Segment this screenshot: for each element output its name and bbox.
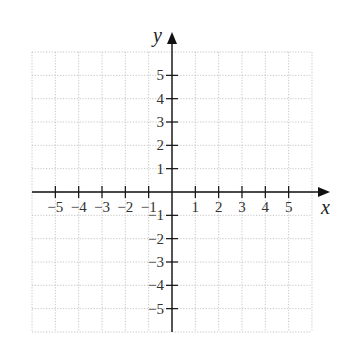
x-axis-label: x (320, 196, 330, 218)
x-tick-label: −3 (94, 199, 110, 215)
y-tick-label: 2 (157, 137, 165, 153)
y-tick-label: −1 (148, 207, 164, 223)
x-tick-label: −2 (117, 199, 133, 215)
y-axis-arrow-icon (167, 32, 177, 44)
y-tick-label: −2 (148, 231, 164, 247)
x-tick-label: 2 (215, 199, 223, 215)
y-tick-label: −4 (148, 277, 164, 293)
axes (32, 32, 330, 332)
x-tick-label: 3 (238, 199, 246, 215)
x-tick-label: 1 (192, 199, 200, 215)
x-tick-label: −4 (71, 199, 87, 215)
y-tick-label: 1 (157, 161, 165, 177)
y-tick-label: −3 (148, 254, 164, 270)
y-axis-label: y (151, 24, 162, 47)
y-tick-label: −5 (148, 301, 164, 317)
y-tick-label: 4 (157, 91, 165, 107)
y-tick-label: 3 (157, 114, 165, 130)
x-tick-label: 5 (285, 199, 293, 215)
coordinate-plane: −5−4−3−2−112345−5−4−3−2−112345 x y (0, 0, 343, 350)
x-tick-label: −5 (47, 199, 63, 215)
x-tick-label: 4 (262, 199, 270, 215)
y-tick-label: 5 (157, 67, 165, 83)
